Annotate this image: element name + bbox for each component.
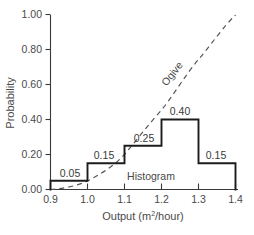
y-tick-label-3: 0.60 [22, 78, 43, 90]
x-tick-label-3: 1.2 [154, 193, 169, 205]
x-tick-label-0: 0.9 [43, 193, 58, 205]
x-tick-label-4: 1.3 [191, 193, 206, 205]
bar-label-4: 0.15 [206, 149, 227, 161]
x-axis-title-tail: /hour) [155, 210, 184, 222]
x-tick-label-5: 1.4 [228, 193, 243, 205]
y-tick-labels: 0.00 0.20 0.40 0.60 0.80 1.00 [22, 8, 43, 195]
histogram-annotation-label: Histogram [127, 170, 175, 182]
bar-label-3: 0.40 [170, 105, 191, 117]
x-axis-title: Output (m2/hour) [102, 210, 184, 222]
x-axis-title-main: Output (m [102, 210, 151, 222]
bar-label-2: 0.25 [134, 132, 155, 144]
y-tick-label-0: 0.00 [22, 183, 43, 195]
y-tick-label-4: 0.80 [22, 43, 43, 55]
x-tick-label-1: 1.0 [80, 193, 95, 205]
x-tick-label-2: 1.1 [117, 193, 132, 205]
x-tick-labels: 0.9 1.0 1.1 1.2 1.3 1.4 [43, 193, 243, 205]
bar-label-1: 0.15 [94, 149, 115, 161]
bar-value-labels: 0.05 0.15 0.25 0.40 0.15 [60, 105, 227, 179]
y-tick-group [46, 15, 51, 190]
y-tick-label-2: 0.40 [22, 113, 43, 125]
y-axis-title: Probability [4, 77, 16, 129]
chart-svg: 0.00 0.20 0.40 0.60 0.80 1.00 0.9 1.0 1.… [0, 0, 254, 235]
y-tick-label-5: 1.00 [22, 8, 43, 20]
chart-figure: 0.00 0.20 0.40 0.60 0.80 1.00 0.9 1.0 1.… [0, 0, 254, 235]
y-tick-label-1: 0.20 [22, 148, 43, 160]
bar-label-0: 0.05 [60, 167, 81, 179]
